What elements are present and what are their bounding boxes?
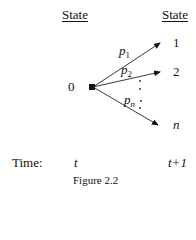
probability-label-1: p1 [119,43,130,60]
origin-state-label: 0 [68,79,75,95]
probability-label-2: p2 [121,62,132,79]
target-state-1: 1 [173,35,180,51]
time-label: Time: [12,155,43,171]
target-state-n: n [173,117,180,133]
prob-sub: n [131,99,136,109]
time-end: t+1 [168,155,187,171]
prob-sub: 1 [126,50,131,60]
ellipsis-dots [139,80,142,109]
time-start: t [74,155,78,171]
figure-caption: Figure 2.2 [73,174,118,186]
prob-sub: 2 [128,69,133,79]
target-state-2: 2 [173,64,180,80]
probability-label-n: pn [124,92,135,109]
